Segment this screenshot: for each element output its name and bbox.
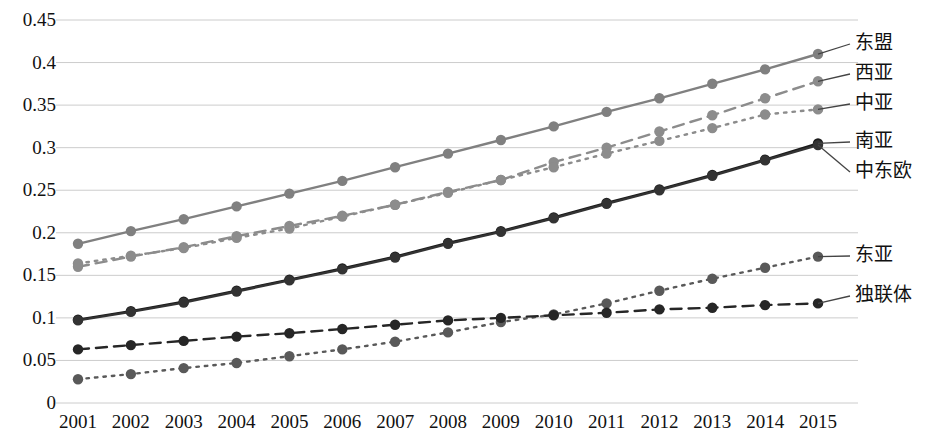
x-axis-tick-label: 2012 [640,412,678,431]
data-point [73,315,83,325]
data-point [284,328,294,338]
legend-leader-line [818,145,850,172]
data-point [813,76,823,86]
data-point [284,351,294,361]
data-point [760,300,770,310]
data-point [231,201,241,211]
data-point [390,252,400,262]
data-point [654,126,664,136]
data-point [654,286,664,296]
data-point [73,258,83,268]
data-point [549,121,559,131]
data-point [443,239,453,249]
data-point [390,320,400,330]
y-axis-tick-label: 0.15 [23,265,56,284]
line-chart: 0.450.40.350.30.250.20.150.10.050 200120… [0,0,928,438]
data-point [179,297,189,307]
data-point [126,369,136,379]
data-point [443,327,453,337]
data-point [707,123,717,133]
y-axis-tick-label: 0.1 [32,308,56,327]
data-point [179,363,189,373]
data-point [284,223,294,233]
data-point [496,135,506,145]
data-point [231,358,241,368]
data-point [654,185,664,195]
data-point [654,136,664,146]
legend-leader-line [818,44,850,54]
data-point [707,274,717,284]
x-axis-tick-label: 2001 [59,412,97,431]
x-axis-tick-label: 2014 [746,412,784,431]
data-point [390,200,400,210]
series-line [78,303,818,349]
data-point [126,307,136,317]
data-point [496,313,506,323]
data-point [284,188,294,198]
data-point [337,211,347,221]
data-point [654,93,664,103]
x-axis-tick-label: 2009 [482,412,520,431]
legend-label-1[interactable]: 西亚 [855,63,893,82]
data-point [284,275,294,285]
data-point [73,239,83,249]
y-axis-tick-label: 0.3 [32,138,56,157]
data-point [549,213,559,223]
data-point [549,310,559,320]
data-point [601,298,611,308]
data-point [760,64,770,74]
data-point [337,176,347,186]
legend-label-5[interactable]: 东亚 [855,245,893,264]
data-point [231,331,241,341]
data-point [337,344,347,354]
data-point [73,374,83,384]
data-point [231,286,241,296]
data-point [707,303,717,313]
legend-label-4[interactable]: 中东欧 [855,161,912,180]
series-南亚 [73,138,823,325]
series-line [78,143,818,319]
chart-canvas [0,0,928,438]
data-point [760,109,770,119]
data-point [601,308,611,318]
x-axis-tick-label: 2005 [270,412,308,431]
x-axis-tick-label: 2010 [535,412,573,431]
data-point [443,188,453,198]
data-point [179,214,189,224]
data-point [231,233,241,243]
data-point [390,162,400,172]
y-axis-tick-label: 0.45 [23,10,56,29]
x-axis-tick-label: 2013 [693,412,731,431]
data-point [707,79,717,89]
x-axis-tick-label: 2011 [588,412,625,431]
data-point [707,171,717,181]
data-point [126,226,136,236]
data-point [179,243,189,253]
data-point [443,315,453,325]
legend-label-0[interactable]: 东盟 [855,33,893,52]
x-axis-tick-label: 2006 [323,412,361,431]
y-axis: 0.450.40.350.30.250.20.150.10.050 [0,0,56,438]
data-point [549,162,559,172]
data-point [601,148,611,158]
data-point [601,107,611,117]
x-axis-tick-label: 2008 [429,412,467,431]
legend-label-3[interactable]: 南亚 [855,131,893,150]
data-point [390,337,400,347]
legend-label-6[interactable]: 独联体 [855,285,912,304]
data-point [496,175,506,185]
data-point [337,264,347,274]
data-point [126,251,136,261]
y-axis-tick-label: 0 [47,393,57,412]
legend-leader-line [818,74,850,81]
x-axis-tick-label: 2007 [376,412,414,431]
data-point [73,344,83,354]
data-point [179,336,189,346]
x-axis-tick-label: 2004 [218,412,256,431]
data-point [654,304,664,314]
data-point [496,227,506,237]
legend-label-2[interactable]: 中亚 [855,93,893,112]
data-point [601,199,611,209]
data-point [126,340,136,350]
y-axis-tick-label: 0.4 [32,53,56,72]
